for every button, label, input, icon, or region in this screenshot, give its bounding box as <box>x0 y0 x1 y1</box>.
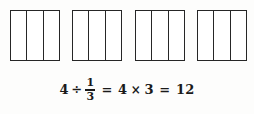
rectangle-part <box>89 11 105 60</box>
rectangle-part <box>73 11 89 60</box>
figure-page: 4 ÷ 1 3 = 4 × 3 = 12 <box>0 0 254 114</box>
equation-line: 4 ÷ 1 3 = 4 × 3 = 12 <box>0 72 254 108</box>
rectangle-part <box>136 11 152 60</box>
rectangle-part <box>152 11 168 60</box>
multiply-icon: × <box>129 84 143 96</box>
equation-factor-a: 4 <box>117 83 129 96</box>
rectangle-part <box>214 11 230 60</box>
equation-result: 12 <box>174 83 196 96</box>
fraction-denominator: 3 <box>87 91 95 103</box>
rectangle-part <box>198 11 214 60</box>
whole-rectangles-row <box>0 0 254 70</box>
rectangle-part <box>169 11 184 60</box>
rectangle-part <box>11 11 27 60</box>
rectangle-part <box>44 11 59 60</box>
equals-sign-1: = <box>97 83 116 96</box>
whole-rectangle-2 <box>72 10 122 61</box>
fraction-numerator: 1 <box>87 77 95 89</box>
equation-factor-b: 3 <box>143 83 155 96</box>
equation-dividend: 4 <box>58 83 70 96</box>
divide-icon: ÷ <box>70 83 83 96</box>
whole-rectangle-1 <box>10 10 60 61</box>
rectangle-part <box>231 11 246 60</box>
rectangle-part <box>106 11 121 60</box>
rectangle-part <box>27 11 43 60</box>
whole-rectangle-4 <box>197 10 247 61</box>
whole-rectangle-3 <box>135 10 185 61</box>
fraction-one-third: 1 3 <box>83 77 97 102</box>
equation-expression: 4 ÷ 1 3 = 4 × 3 = 12 <box>58 77 196 102</box>
equals-sign-2: = <box>155 83 174 96</box>
